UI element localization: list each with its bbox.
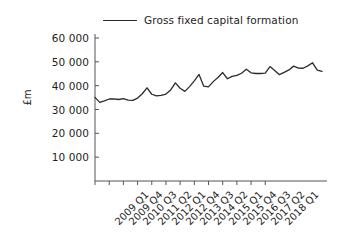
chart-container: Gross fixed capital formation £m 10 0002… bbox=[0, 0, 340, 243]
x-axis-tick-labels: 2009 Q12009 Q42010 Q32011 Q22012 Q12012 … bbox=[0, 0, 340, 243]
